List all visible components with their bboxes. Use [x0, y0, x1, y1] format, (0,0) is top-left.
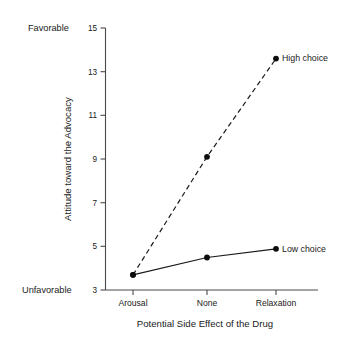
series-line-low-choice [133, 249, 276, 275]
series-label-low-choice: Low choice [282, 244, 326, 254]
scale-anchor-favorable: Favorable [28, 23, 69, 33]
y-tick-label-3: 3 [92, 286, 97, 295]
series-label-high-choice: High choice [282, 53, 328, 63]
x-tick-label-arousal: Arousal [118, 298, 147, 308]
series-line-high-choice [133, 59, 276, 275]
y-axis-title: Attitude toward the Advocacy [62, 97, 73, 221]
y-tick-label-9: 9 [92, 155, 97, 164]
chart-figure: 15 13 11 9 7 5 3 Arousal None Relaxation… [0, 0, 342, 343]
data-point-low-choice-arousal [130, 272, 136, 278]
y-tick-label-11: 11 [89, 111, 98, 120]
x-axis-title: Potential Side Effect of the Drug [137, 318, 273, 329]
data-point-low-choice-relaxation [273, 246, 279, 252]
x-tick-label-relaxation: Relaxation [256, 298, 297, 308]
y-tick-label-5: 5 [92, 242, 97, 251]
x-tick-label-none: None [197, 298, 218, 308]
data-point-high-choice-relaxation [273, 56, 279, 62]
line-chart-canvas: 15 13 11 9 7 5 3 Arousal None Relaxation… [0, 0, 342, 343]
data-point-high-choice-none [204, 154, 210, 160]
data-point-low-choice-none [204, 255, 210, 261]
scale-anchor-unfavorable: Unfavorable [22, 285, 72, 295]
y-tick-label-13: 13 [88, 68, 98, 77]
y-tick-label-7: 7 [92, 199, 97, 208]
y-tick-label-15: 15 [88, 24, 98, 33]
